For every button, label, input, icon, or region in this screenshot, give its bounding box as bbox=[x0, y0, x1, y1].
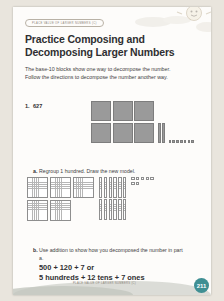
part-b-instruction: Use addition to show how you decomposed … bbox=[39, 247, 187, 262]
one-cube bbox=[150, 177, 153, 180]
problem-number: 1. bbox=[25, 103, 30, 109]
ten-rod bbox=[123, 177, 126, 198]
ten-rod bbox=[113, 177, 116, 198]
tens-rods-regrouped[interactable] bbox=[99, 177, 126, 220]
ten-rod bbox=[123, 199, 126, 220]
hundred-flat bbox=[113, 123, 133, 143]
ten-rod bbox=[99, 177, 102, 198]
ten-rod bbox=[109, 199, 112, 220]
hundred-flat bbox=[91, 101, 111, 121]
one-cube bbox=[146, 177, 149, 180]
one-cube bbox=[136, 182, 139, 185]
ten-rod bbox=[118, 177, 121, 198]
one-cube bbox=[188, 140, 191, 143]
ten-rod bbox=[158, 123, 161, 143]
instructions-paragraph: The base-10 blocks show one way to decom… bbox=[25, 65, 185, 82]
page-footer: PLACE VALUE OF LARGER NUMBERS (C) 211 bbox=[13, 275, 211, 295]
one-cube bbox=[131, 182, 134, 185]
one-cube bbox=[172, 140, 175, 143]
ones-cubes-regrouped[interactable] bbox=[131, 177, 154, 185]
ten-rod bbox=[162, 123, 165, 143]
one-cube bbox=[180, 140, 183, 143]
part-a-instruction: Regroup 1 hundred. Draw the new model. bbox=[39, 168, 135, 174]
ten-rod bbox=[109, 177, 112, 198]
base-ten-model-given bbox=[91, 101, 194, 143]
ten-rod bbox=[113, 199, 116, 220]
problem-value: 627 bbox=[33, 103, 42, 109]
part-a-label: a. bbox=[33, 168, 37, 174]
hundreds-flats-regrouped[interactable] bbox=[27, 177, 94, 221]
base-ten-model-regrouped[interactable] bbox=[27, 177, 154, 221]
hundred-flat bbox=[50, 177, 71, 198]
hundreds-flats-given bbox=[91, 101, 154, 143]
one-cube bbox=[131, 177, 134, 180]
ten-rod bbox=[104, 177, 107, 198]
ten-rod bbox=[118, 199, 121, 220]
hundred-flat bbox=[134, 123, 154, 143]
page-title: Practice Composing and Decomposing Large… bbox=[25, 33, 197, 58]
hundred-flat bbox=[73, 177, 94, 198]
answer-equation-numeric[interactable]: 500 + 120 + 7 or bbox=[39, 263, 94, 272]
hundred-flat bbox=[91, 123, 111, 143]
hundred-flat bbox=[134, 101, 154, 121]
hundred-flat bbox=[113, 101, 133, 121]
ten-rod bbox=[99, 199, 102, 220]
one-cube bbox=[176, 140, 179, 143]
part-b-label: b. bbox=[33, 247, 38, 253]
one-cube bbox=[136, 177, 139, 180]
footer-topic-label: PLACE VALUE OF LARGER NUMBERS (C) bbox=[73, 282, 136, 285]
worksheet-page: PLACE VALUE OF LARGER NUMBERS (C) Practi… bbox=[13, 7, 211, 295]
one-cube bbox=[191, 140, 194, 143]
ten-rod bbox=[104, 199, 107, 220]
cloud-decoration bbox=[133, 9, 203, 29]
ones-cubes-given bbox=[169, 140, 194, 143]
one-cube bbox=[141, 177, 144, 180]
one-cube bbox=[169, 140, 172, 143]
page-number-badge: 211 bbox=[194, 278, 209, 293]
hundred-flat bbox=[50, 200, 71, 221]
hundred-flat bbox=[27, 200, 48, 221]
topic-badge: PLACE VALUE OF LARGER NUMBERS (C) bbox=[25, 19, 104, 27]
one-cube bbox=[184, 140, 187, 143]
tens-rods-given bbox=[158, 123, 165, 143]
hundred-flat bbox=[27, 177, 48, 198]
